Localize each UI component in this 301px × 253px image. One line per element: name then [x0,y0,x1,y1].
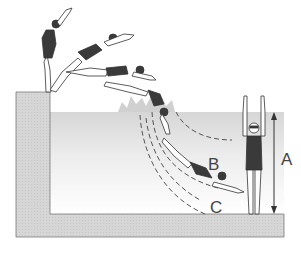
diving-diagram: A B C [0,0,301,253]
label-c: C [210,198,222,217]
label-a: A [281,150,293,169]
label-b: B [208,155,219,174]
diver-stage-3 [66,66,156,80]
diver-stage-2 [50,34,134,92]
